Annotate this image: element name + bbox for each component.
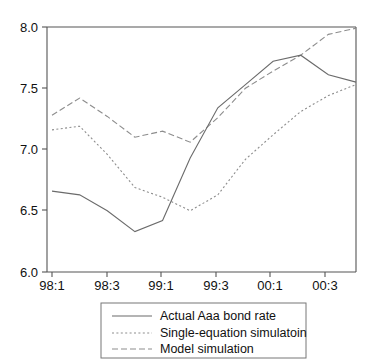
legend-label-single-equation: Single-equation simulatoin: [160, 326, 307, 340]
line-chart: 8.0 7.5 7.0 6.5 6.0 98:1 98:3 99:1 99:3 …: [0, 0, 373, 364]
chart-legend: Actual Aaa bond rate Single-equation sim…: [101, 303, 307, 358]
y-tick-label: 8.0: [20, 20, 38, 35]
x-tick-marks: [52, 272, 325, 277]
series-line-actual-aaa-bond-rate: [52, 55, 356, 231]
x-tick-label: 98:1: [39, 278, 64, 293]
x-tick-label: 99:1: [148, 278, 173, 293]
y-tick-label: 7.5: [20, 81, 38, 96]
data-series-group: [52, 28, 356, 231]
y-tick-marks: [42, 27, 47, 272]
y-tick-label: 7.0: [20, 142, 38, 157]
chart-figure: 8.0 7.5 7.0 6.5 6.0 98:1 98:3 99:1 99:3 …: [0, 0, 373, 364]
y-tick-labels: 8.0 7.5 7.0 6.5 6.0: [20, 20, 38, 280]
plot-axes: [47, 27, 356, 272]
x-tick-label: 00:3: [312, 278, 337, 293]
legend-label-actual: Actual Aaa bond rate: [160, 309, 276, 323]
x-tick-label: 99:3: [203, 278, 228, 293]
x-tick-label: 98:3: [94, 278, 119, 293]
y-tick-label: 6.5: [20, 203, 38, 218]
x-tick-label: 00:1: [257, 278, 282, 293]
x-tick-labels: 98:1 98:3 99:1 99:3 00:1 00:3: [39, 278, 337, 293]
series-line-single-equation-simulation: [52, 85, 356, 211]
legend-label-model: Model simulation: [160, 342, 254, 356]
y-tick-label: 6.0: [20, 265, 38, 280]
series-line-model-simulation: [52, 28, 356, 142]
